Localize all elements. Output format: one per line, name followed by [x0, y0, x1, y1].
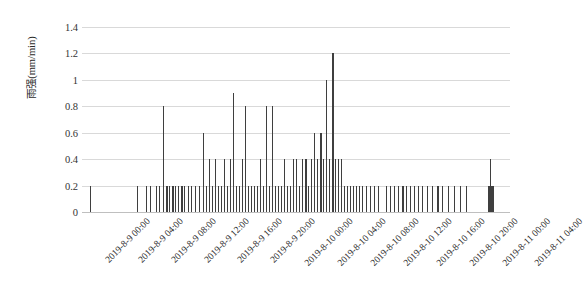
- bar: [454, 186, 455, 212]
- x-tick-label: 2019-8-9 16:00: [235, 216, 284, 265]
- bar: [347, 186, 348, 212]
- bar: [272, 106, 273, 212]
- bar: [378, 186, 379, 212]
- bar: [175, 186, 176, 212]
- bar: [239, 186, 240, 212]
- bar: [278, 186, 279, 212]
- bar-series: [82, 27, 510, 212]
- x-tick: 2019-8-11 00:00: [501, 216, 553, 268]
- bar: [402, 186, 404, 212]
- bar: [254, 186, 255, 212]
- bar: [386, 186, 387, 212]
- bar: [224, 159, 225, 212]
- x-tick-label: 2019-8-10 04:00: [336, 216, 388, 268]
- x-tick: 2019-8-9 16:00: [235, 216, 284, 265]
- y-tick-label: 1.2: [6, 48, 78, 59]
- bar: [466, 186, 467, 212]
- bar: [287, 186, 288, 212]
- bar: [308, 186, 309, 212]
- x-tick: 2019-8-10 20:00: [468, 216, 520, 268]
- bar: [281, 186, 282, 212]
- bar: [410, 186, 411, 212]
- bar: [284, 159, 285, 212]
- bar: [311, 159, 312, 212]
- x-tick-label: 2019-8-9 04:00: [136, 216, 185, 265]
- x-tick: 2019-8-10 16:00: [435, 216, 487, 268]
- x-tick-label: 2019-8-10 12:00: [402, 216, 454, 268]
- bar: [293, 159, 294, 212]
- bar: [156, 186, 157, 212]
- bar: [269, 186, 270, 212]
- bar: [163, 106, 164, 212]
- bar: [260, 159, 261, 212]
- bar: [242, 159, 243, 212]
- x-tick-label: 2019-8-10 16:00: [435, 216, 487, 268]
- bar: [169, 186, 170, 212]
- x-tick: 2019-8-9 12:00: [202, 216, 251, 265]
- y-tick-label: 1.4: [6, 22, 78, 33]
- bar: [188, 186, 189, 212]
- bar: [263, 186, 264, 212]
- bar: [221, 186, 222, 212]
- bar: [230, 159, 231, 212]
- y-tick-label: 0.2: [6, 180, 78, 191]
- x-tick-label: 2019-8-9 20:00: [268, 216, 317, 265]
- bar: [181, 186, 183, 212]
- bar: [146, 186, 147, 212]
- bar: [406, 186, 407, 212]
- bar: [150, 186, 151, 212]
- x-tick: 2019-8-10 12:00: [402, 216, 454, 268]
- x-tick-label: 2019-8-11 00:00: [501, 216, 553, 268]
- x-tick: 2019-8-10 00:00: [303, 216, 355, 268]
- bar: [414, 186, 415, 212]
- bar: [159, 186, 160, 212]
- bar: [490, 159, 491, 212]
- bar: [366, 186, 367, 212]
- bar: [305, 159, 307, 212]
- bar: [184, 186, 185, 212]
- bar: [227, 186, 228, 212]
- bar: [90, 186, 91, 212]
- bar: [359, 186, 360, 212]
- x-tick-label: 2019-8-11 04:00: [533, 216, 584, 268]
- bar: [394, 186, 395, 212]
- bar: [390, 186, 391, 212]
- bar: [370, 186, 371, 212]
- bar: [199, 186, 200, 212]
- bar: [338, 159, 339, 212]
- bar: [326, 80, 327, 212]
- bar: [275, 186, 276, 212]
- bar: [236, 186, 237, 212]
- x-tick-label: 2019-8-9 00:00: [103, 216, 152, 265]
- x-tick: 2019-8-9 20:00: [268, 216, 317, 265]
- bar: [302, 159, 303, 212]
- x-tick-label: 2019-8-10 20:00: [468, 216, 520, 268]
- bar: [195, 186, 196, 212]
- bar: [374, 186, 375, 212]
- bar: [257, 186, 258, 212]
- bar: [432, 186, 433, 212]
- x-tick-label: 2019-8-10 00:00: [303, 216, 355, 268]
- bar: [251, 186, 252, 212]
- x-tick-label: 2019-8-9 08:00: [169, 216, 218, 265]
- x-tick: 2019-8-9 08:00: [169, 216, 218, 265]
- bar: [418, 186, 419, 212]
- bar: [209, 159, 210, 212]
- bar: [362, 186, 363, 212]
- x-tick-label: 2019-8-10 08:00: [369, 216, 421, 268]
- bar: [329, 159, 330, 212]
- bar: [442, 186, 443, 212]
- bar: [166, 186, 168, 212]
- bar: [248, 186, 249, 212]
- bar: [335, 159, 336, 212]
- bar: [314, 133, 315, 212]
- bar: [448, 186, 449, 212]
- bar: [178, 186, 179, 212]
- bar: [137, 186, 138, 212]
- y-tick-label: 0.8: [6, 101, 78, 112]
- x-tick-label: 2019-8-9 12:00: [202, 216, 251, 265]
- bar: [172, 186, 174, 212]
- bar: [356, 186, 357, 212]
- x-tick: 2019-8-10 08:00: [369, 216, 421, 268]
- bar: [320, 133, 322, 212]
